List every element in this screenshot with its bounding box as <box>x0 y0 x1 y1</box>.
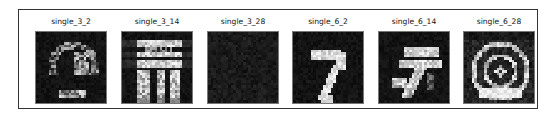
generated-image <box>292 31 364 104</box>
generated-image <box>121 31 193 104</box>
figure-frame: single_3_2 single_3_14 single_3_28 singl… <box>18 9 538 109</box>
generated-image <box>463 31 535 104</box>
generated-image <box>35 31 107 104</box>
panel-title: single_3_14 <box>111 17 203 26</box>
panel-title: single_6_28 <box>453 17 545 26</box>
panel-title: single_6_14 <box>368 17 460 26</box>
generated-image <box>207 31 279 104</box>
panel-title: single_3_2 <box>25 17 117 26</box>
generated-image <box>378 31 450 104</box>
panel-title: single_6_2 <box>282 17 374 26</box>
panel-title: single_3_28 <box>197 17 289 26</box>
